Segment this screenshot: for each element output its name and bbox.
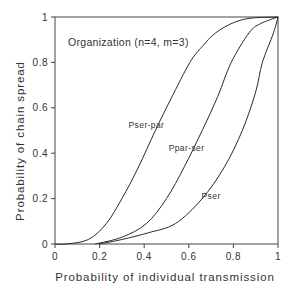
chart: 00.20.40.60.8100.20.40.60.81 Pser-parPpa… [0,0,291,299]
x-tick-label: 0 [52,251,58,262]
x-tick-label: 0.4 [136,251,151,262]
curve-labels: Pser-parPpar-serPser [129,120,221,200]
x-tick-label: 0.2 [92,251,107,262]
y-axis-label: Probability of chain spread [14,61,26,221]
y-tick-label: 0.8 [33,57,48,68]
curve-pser-par [55,17,278,244]
curve-ppar-ser [95,17,278,244]
plot-frame [55,17,278,244]
curve-pser [100,17,278,244]
x-axis-label: Probability of individual transmission [55,271,275,283]
y-tick-label: 0.4 [33,148,48,159]
curve-label-ppar-ser: Ppar-ser [169,143,205,153]
y-tick-label: 0.2 [33,193,48,204]
curve-label-pser-par: Pser-par [129,120,165,130]
curve-label-pser: Pser [202,191,221,201]
y-tick-label: 0 [42,239,48,250]
curves [55,17,278,244]
x-tick-label: 1 [275,251,281,262]
plot-area: 00.20.40.60.8100.20.40.60.81 [33,12,281,263]
x-tick-label: 0.8 [226,251,241,262]
y-tick-label: 0.6 [33,102,48,113]
annotation-text: Organization (n=4, m=3) [68,36,189,48]
x-tick-label: 0.6 [181,251,196,262]
y-tick-label: 1 [42,12,48,23]
